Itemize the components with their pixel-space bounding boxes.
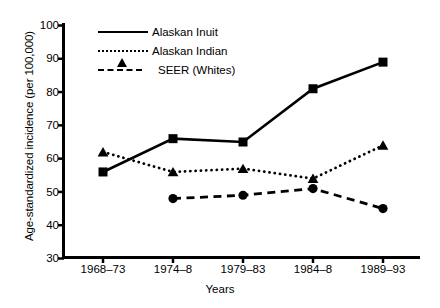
data-series-layer: [98, 58, 389, 214]
plot-area: [0, 0, 440, 308]
line-chart: Age-standardized incidence (per 100,000)…: [0, 0, 440, 308]
